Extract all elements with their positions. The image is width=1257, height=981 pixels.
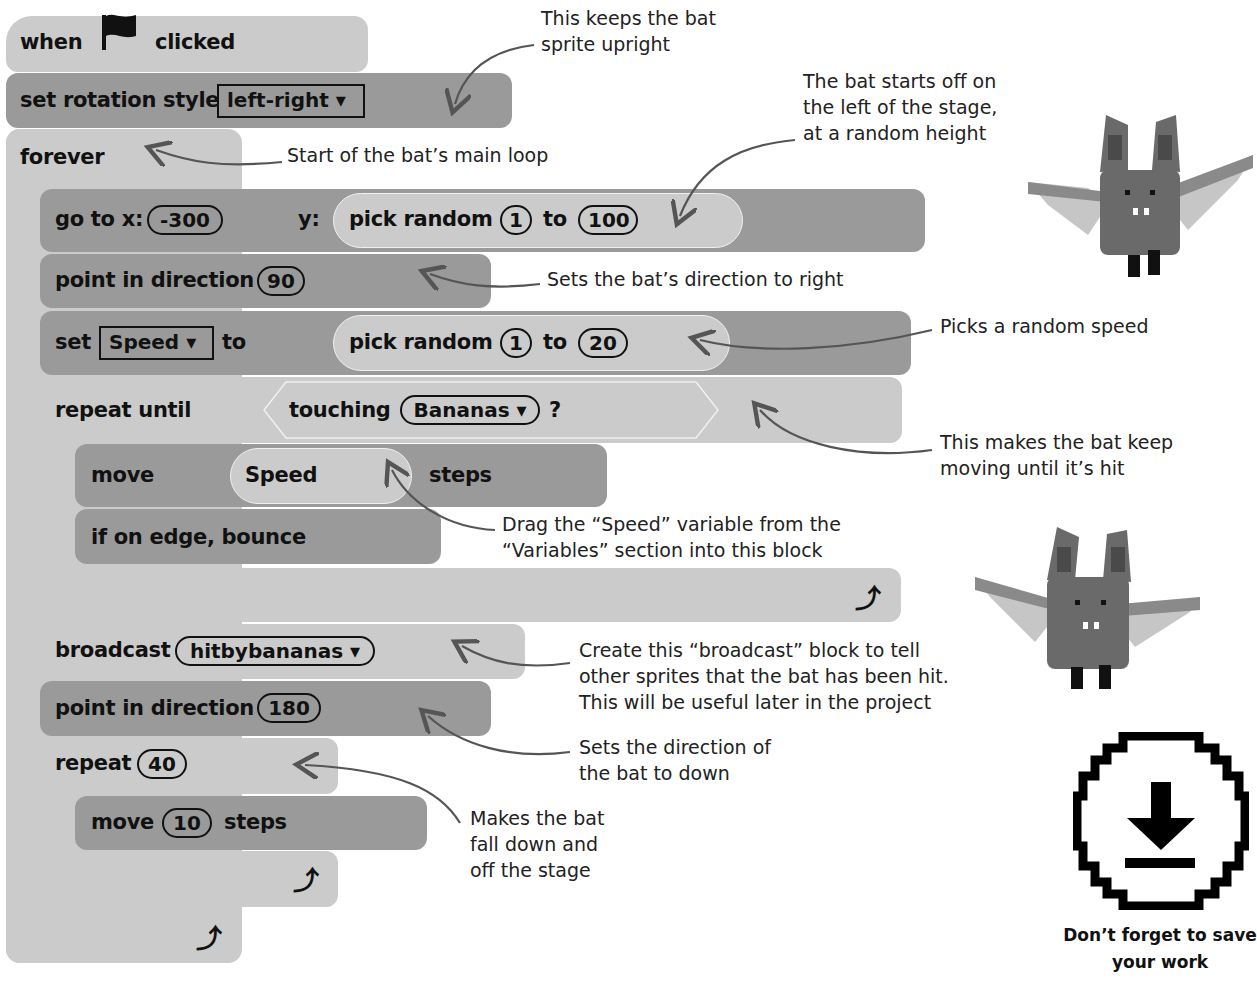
annotation-keep-moving: This makes the bat keep moving until it’…	[940, 429, 1173, 481]
loop-arrow-icon: ⤴	[855, 578, 881, 615]
broadcast-label: broadcast	[55, 638, 170, 662]
direction-180-input[interactable]: 180	[257, 693, 321, 723]
to-label: to	[543, 207, 567, 231]
chevron-down-icon: ▾	[350, 639, 360, 663]
pick-random-label: pick random	[349, 330, 492, 354]
hat-when-label: when	[20, 30, 82, 54]
move-steps-input[interactable]: 10	[162, 808, 212, 838]
chevron-down-icon: ▾	[517, 398, 527, 422]
save-reminder-caption: Don’t forget to save your work	[1062, 922, 1257, 976]
set-rotation-label: set rotation style	[20, 88, 219, 112]
annotation-start-left: The bat starts off on the left of the st…	[803, 68, 997, 146]
annotation-upright: This keeps the bat sprite upright	[541, 5, 716, 57]
bat-sprite-icon	[975, 522, 1200, 696]
download-save-icon	[1073, 732, 1249, 914]
hat-clicked-label: clicked	[155, 30, 235, 54]
annotation-direction-right: Sets the bat’s direction to right	[547, 266, 844, 292]
touching-object-dropdown[interactable]: Bananas ▾	[400, 395, 540, 425]
rotation-style-dropdown[interactable]: left-right ▾	[217, 84, 365, 118]
random-from-input[interactable]: 1	[500, 328, 532, 358]
annotation-direction-down: Sets the direction of the bat to down	[579, 734, 771, 786]
question-mark: ?	[549, 398, 561, 422]
goto-x-input[interactable]: -300	[147, 205, 223, 235]
to-label: to	[543, 330, 567, 354]
annotation-drag-speed: Drag the “Speed” variable from the “Vari…	[502, 511, 841, 563]
variable-dropdown[interactable]: Speed ▾	[99, 326, 214, 360]
annotation-fall: Makes the bat fall down and off the stag…	[470, 805, 604, 883]
annotation-broadcast: Create this “broadcast” block to tell ot…	[579, 637, 949, 715]
bat-sprite-icon	[1028, 110, 1253, 284]
speed-variable-label: Speed	[245, 463, 317, 487]
goto-y-label: y:	[298, 207, 320, 231]
chevron-down-icon: ▾	[186, 330, 196, 354]
random-to-input[interactable]: 20	[578, 328, 628, 358]
set-to-label: to	[222, 330, 246, 354]
move-label: move	[91, 810, 154, 834]
steps-label: steps	[429, 463, 492, 487]
move-label: move	[91, 463, 154, 487]
random-to-input[interactable]: 100	[578, 205, 638, 235]
bounce-label: if on edge, bounce	[91, 525, 306, 549]
repeat-until-label: repeat until	[55, 398, 191, 422]
annotation-main-loop: Start of the bat’s main loop	[287, 142, 548, 168]
chevron-down-icon: ▾	[336, 88, 346, 112]
repeat-label: repeat	[55, 751, 131, 775]
pick-random-label: pick random	[349, 207, 492, 231]
loop-arrow-icon: ⤴	[293, 860, 319, 897]
point-direction-label: point in direction	[55, 268, 254, 292]
broadcast-message-dropdown[interactable]: hitbybananas ▾	[175, 636, 375, 666]
touching-label: touching	[289, 398, 391, 422]
repeat-count-input[interactable]: 40	[137, 749, 187, 779]
steps-label: steps	[224, 810, 287, 834]
loop-arrow-icon: ⤴	[196, 918, 222, 955]
direction-90-input[interactable]: 90	[257, 266, 305, 296]
point-direction-label: point in direction	[55, 696, 254, 720]
green-flag-icon	[100, 12, 138, 52]
forever-label: forever	[20, 145, 104, 169]
random-from-input[interactable]: 1	[500, 205, 532, 235]
goto-x-label: go to x:	[55, 207, 143, 231]
annotation-random-speed: Picks a random speed	[940, 313, 1149, 339]
set-label: set	[55, 330, 91, 354]
